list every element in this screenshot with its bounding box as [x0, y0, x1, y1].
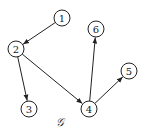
- graph-label: 𝒢: [56, 116, 66, 129]
- node-3: 3: [21, 101, 37, 117]
- node-2: 2: [8, 41, 24, 57]
- node-label: 2: [13, 44, 19, 55]
- edge-2-to-4: [22, 54, 82, 104]
- node-4: 4: [81, 101, 97, 117]
- node-label: 4: [86, 104, 92, 115]
- node-1: 1: [54, 10, 70, 26]
- node-label: 3: [26, 104, 32, 115]
- edge-4-to-6: [90, 37, 96, 101]
- edge-2-to-3: [18, 57, 28, 101]
- edge-1-to-2: [23, 22, 55, 44]
- directed-graph: 123456 𝒢: [0, 0, 146, 134]
- node-label: 6: [93, 24, 99, 35]
- node-label: 5: [126, 66, 132, 77]
- edges: [18, 22, 123, 103]
- nodes: 123456: [8, 10, 137, 117]
- edge-4-to-5: [95, 77, 123, 104]
- node-6: 6: [88, 21, 104, 37]
- node-5: 5: [121, 63, 137, 79]
- node-label: 1: [59, 13, 65, 24]
